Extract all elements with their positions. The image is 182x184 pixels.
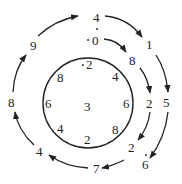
arrow-4-to-8 [15,112,34,145]
repeating-decimal-diagram: 4 1 5 6 7 4 8 9 0 8 2 2 2 4 6 8 2 4 6 8 … [0,0,182,184]
arrow-7-to-4 [49,155,88,168]
repeat-dot-6 [145,154,147,156]
outer-digit-4-top: 4 [93,10,100,25]
repeat-dot-2 [82,64,84,66]
inner-digit-4-lower-left: 4 [57,121,64,136]
repeat-dot-0 [87,39,89,41]
inner-digit-4-upper-right: 4 [112,69,119,84]
outer-digit-5: 5 [163,95,170,110]
arrow-8-to-2 [140,68,150,93]
repeat-dot-4 [96,28,98,30]
outer-digit-8: 8 [8,95,15,110]
outer-digit-9: 9 [30,38,37,53]
arrow-2-to-7 [102,160,124,168]
inner-digit-2-top: 2 [86,57,93,72]
outer-digit-6: 6 [142,157,149,172]
inner-digit-2-bottom: 2 [84,132,91,147]
inner-digit-6-left: 6 [45,96,52,111]
arrow-2-to-2 [138,112,150,140]
outer-digit-4-bottom-left: 4 [36,144,43,159]
arrow-8-to-9 [13,55,26,92]
middle-digit-8: 8 [129,53,136,68]
arrow-4-to-1 [105,16,142,37]
inner-digit-8-upper-left: 8 [57,70,64,85]
middle-digit-2-right: 2 [146,96,153,111]
middle-digit-0: 0 [92,33,99,48]
outer-digit-1: 1 [146,37,153,52]
arrow-0-to-8 [104,39,126,52]
inner-digit-8-lower-right: 8 [112,122,119,137]
middle-digit-2-lower: 2 [128,140,135,155]
arrow-1-to-5 [156,55,168,92]
inner-center-digit-3: 3 [84,99,91,114]
outer-digit-7: 7 [93,161,100,176]
inner-digit-6-right: 6 [123,96,130,111]
arrow-5-to-6 [150,112,168,158]
arrow-9-to-4 [38,16,78,36]
